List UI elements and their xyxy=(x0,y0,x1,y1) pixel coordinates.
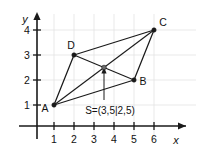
vertex-dot-a xyxy=(52,103,56,107)
parallelogram-diagram: 1 2 3 4 5 6 1 2 3 4 x y A B C D S=(3,5|2… xyxy=(0,0,203,156)
y-axis-arrowhead xyxy=(33,12,40,20)
vertex-label-a: A xyxy=(41,102,48,114)
x-tick-label-5: 5 xyxy=(131,133,137,145)
grid-lines xyxy=(28,14,196,140)
y-tick-label-4: 4 xyxy=(24,24,30,36)
coordinate-plane-figure: 1 2 3 4 5 6 1 2 3 4 x y A B C D S=(3,5|2… xyxy=(0,0,203,156)
x-axis-tick-labels: 1 2 3 4 5 6 xyxy=(51,133,157,145)
vertex-label-d: D xyxy=(67,39,75,51)
y-tick-label-3: 3 xyxy=(24,49,30,61)
y-tick-label-1: 1 xyxy=(24,99,30,111)
vertex-dot-b xyxy=(132,78,136,82)
center-point-annotation: S=(3,5|2,5) xyxy=(85,105,135,116)
vertex-label-b: B xyxy=(139,75,146,87)
x-axis-arrowhead xyxy=(178,122,186,129)
y-tick-label-2: 2 xyxy=(24,74,30,86)
x-axis-label: x xyxy=(172,134,179,146)
center-dot-s xyxy=(102,65,107,70)
vertex-dot-c xyxy=(152,28,156,32)
x-tick-label-4: 4 xyxy=(111,133,117,145)
vertex-dot-d xyxy=(72,53,76,57)
x-tick-label-3: 3 xyxy=(91,133,97,145)
x-tick-label-1: 1 xyxy=(51,133,57,145)
y-axis-tick-labels: 1 2 3 4 xyxy=(24,24,30,111)
axes xyxy=(19,12,186,139)
x-tick-label-6: 6 xyxy=(151,133,157,145)
vertex-label-c: C xyxy=(159,16,167,28)
x-tick-label-2: 2 xyxy=(71,133,77,145)
